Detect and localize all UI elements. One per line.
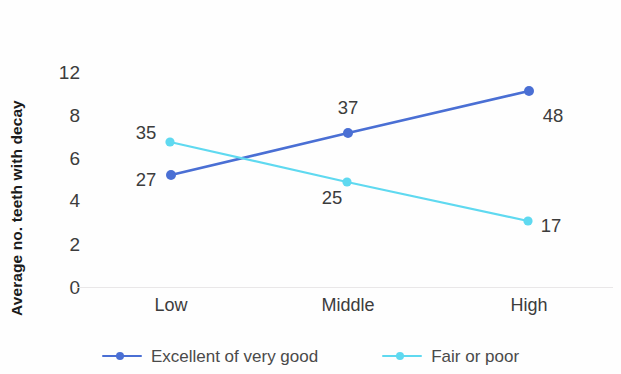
data-point-label: 48	[543, 107, 564, 126]
data-point-label: 35	[136, 124, 157, 143]
data-point-marker	[343, 128, 353, 138]
x-tick-label: High	[510, 296, 547, 314]
data-point-label: 37	[338, 99, 359, 118]
plot-area	[0, 0, 621, 374]
legend-item[interactable]: Fair or poor	[382, 348, 519, 365]
data-point-marker	[342, 177, 351, 186]
legend-marker-icon	[102, 350, 142, 362]
legend-dot-icon	[396, 352, 404, 360]
data-point-marker	[524, 86, 534, 96]
legend-marker-icon	[382, 350, 422, 362]
data-point-marker	[165, 137, 174, 146]
data-point-marker	[523, 216, 532, 225]
x-tick-label: Middle	[321, 296, 374, 314]
data-point-marker	[166, 170, 176, 180]
chart-legend: Excellent of very goodFair or poor	[0, 340, 621, 372]
legend-label: Fair or poor	[431, 348, 519, 365]
x-tick-label: Low	[154, 296, 187, 314]
chart-figure: Average no. teeth with decay 1286420 273…	[0, 0, 621, 374]
legend-label: Excellent of very good	[151, 348, 318, 365]
legend-item[interactable]: Excellent of very good	[102, 348, 318, 365]
legend-dot-icon	[116, 352, 124, 360]
data-point-label: 27	[136, 171, 157, 190]
data-point-label: 25	[322, 189, 343, 208]
data-point-label: 17	[541, 217, 562, 236]
